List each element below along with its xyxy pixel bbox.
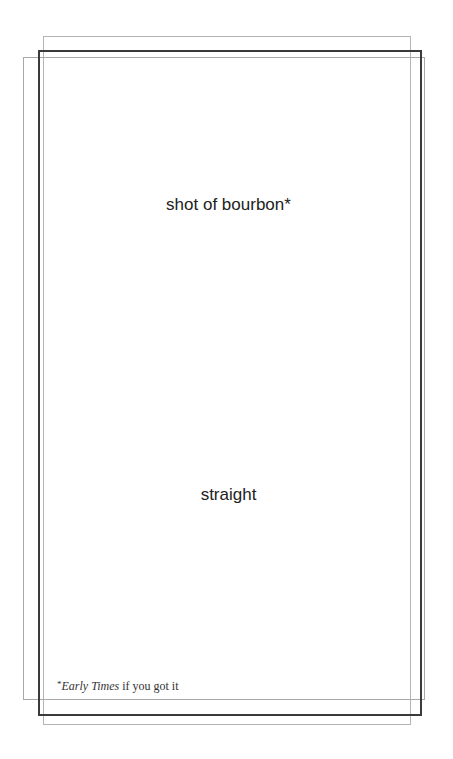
footnote-brand: Early Times [62, 679, 120, 693]
card-border [38, 50, 422, 716]
serving-style: straight [2, 485, 453, 505]
footnote-text: if you got it [119, 679, 178, 693]
drink-name: shot of bourbon* [2, 195, 453, 215]
footnote: *Early Times if you got it [57, 677, 179, 693]
